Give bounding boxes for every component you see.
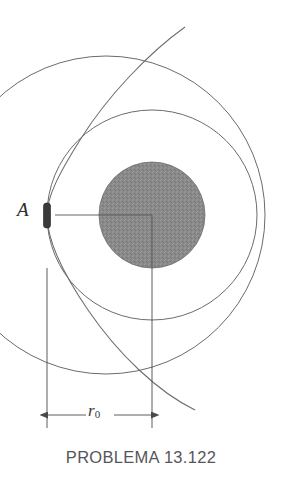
figure-root: A r0 PROBLEMA 13.122 <box>0 0 282 494</box>
point-a-label: A <box>17 200 29 219</box>
radius-subscript: 0 <box>95 408 101 420</box>
radius-symbol: r <box>88 401 95 420</box>
figure-canvas <box>0 0 282 494</box>
figure-caption: PROBLEMA 13.122 <box>0 448 282 467</box>
point-a-marker <box>44 203 51 228</box>
radius-dimension-label: r0 <box>88 402 100 420</box>
